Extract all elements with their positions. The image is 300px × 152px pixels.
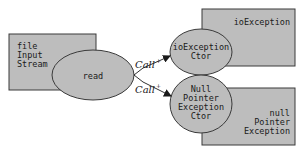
node-label-line: Ctor (191, 111, 211, 121)
edge-label-superscript: + (156, 57, 161, 64)
edge-label: Call (135, 84, 155, 95)
svg-text:Call: Call (135, 84, 155, 95)
read-node: read (52, 50, 134, 100)
box-label-line: Exception (244, 126, 290, 136)
svg-text:+: + (156, 57, 161, 64)
svg-text:ioException: ioException (234, 17, 290, 27)
call-graph-diagram: file Input Stream ioException null Point… (0, 0, 300, 152)
edge-label-superscript: + (156, 82, 161, 89)
svg-text:Exception: Exception (244, 126, 290, 136)
box-label-line: ioException (234, 17, 290, 27)
edge-read-to-npe-ctor: Call + (134, 75, 171, 96)
svg-text:read: read (83, 71, 103, 81)
node-label-line: Ctor (191, 51, 211, 61)
null-pointer-exception-ctor-node: Null Pointer Exception Ctor (170, 75, 232, 133)
edge-label: Call (135, 59, 155, 70)
svg-text:Ctor: Ctor (191, 51, 211, 61)
svg-text:Stream: Stream (17, 59, 48, 69)
svg-text:Ctor: Ctor (191, 111, 211, 121)
node-label-line: read (83, 71, 103, 81)
svg-text:+: + (156, 82, 161, 89)
box-label-line: Stream (17, 59, 48, 69)
svg-text:Call: Call (135, 59, 155, 70)
edge-read-to-io-exception-ctor: Call + (134, 56, 170, 75)
io-exception-ctor-node: ioException Ctor (170, 29, 232, 75)
